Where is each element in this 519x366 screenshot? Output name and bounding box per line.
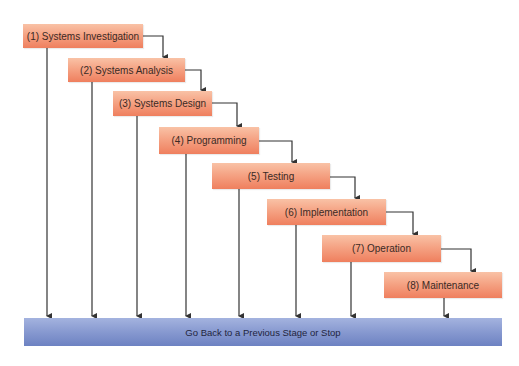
stage-maintenance: (8) Maintenance — [384, 272, 502, 298]
go-back-bar: Go Back to a Previous Stage or Stop — [24, 318, 502, 346]
stage-label: (4) Programming — [171, 135, 246, 146]
stage-testing: (5) Testing — [212, 163, 330, 189]
stage-systems-design: (3) Systems Design — [113, 91, 212, 116]
arrow-2-to-3 — [185, 70, 201, 90]
stage-label: (8) Maintenance — [407, 280, 479, 291]
go-back-label: Go Back to a Previous Stage or Stop — [185, 327, 340, 338]
arrow-1-to-2 — [143, 36, 163, 57]
stage-systems-investigation: (1) Systems Investigation — [23, 24, 143, 48]
stage-label: (3) Systems Design — [119, 98, 206, 109]
stage-label: (6) Implementation — [285, 207, 368, 218]
arrow-3-to-4 — [212, 103, 237, 126]
stage-label: (5) Testing — [248, 171, 295, 182]
stage-label: (7) Operation — [352, 243, 411, 254]
stage-operation: (7) Operation — [322, 235, 441, 262]
arrow-6-to-7 — [386, 212, 413, 234]
stage-programming: (4) Programming — [159, 127, 259, 154]
stage-systems-analysis: (2) Systems Analysis — [68, 58, 185, 82]
arrow-7-to-8 — [441, 249, 471, 271]
stage-label: (1) Systems Investigation — [27, 31, 139, 42]
arrow-4-to-5 — [259, 141, 292, 162]
stage-label: (2) Systems Analysis — [80, 65, 173, 76]
arrow-5-to-6 — [330, 177, 355, 198]
stage-implementation: (6) Implementation — [267, 199, 386, 225]
